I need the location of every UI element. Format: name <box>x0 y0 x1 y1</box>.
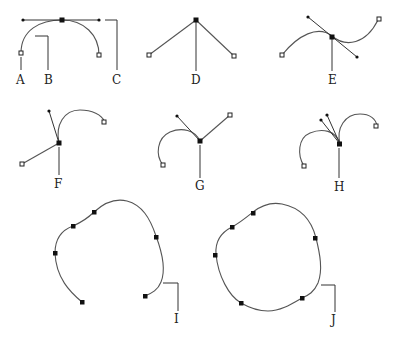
leader-b <box>35 36 48 70</box>
endpoint-anchor-right <box>232 54 236 58</box>
figure-i: I <box>53 200 179 326</box>
path-anchor-point <box>53 251 58 256</box>
label-e: E <box>328 73 337 87</box>
endpoint-anchor-left <box>161 163 165 167</box>
path-anchor-point <box>300 296 305 301</box>
path-anchor-point <box>313 236 318 241</box>
bezier-diagram: A B C D E F <box>0 0 396 339</box>
figure-h: H <box>300 113 378 194</box>
path-anchor-point <box>230 225 235 230</box>
direction-point <box>47 109 50 112</box>
straight-segment-left <box>149 20 196 55</box>
leader-c <box>105 20 117 70</box>
direction-point <box>175 114 178 117</box>
corner-anchor-point <box>198 139 203 144</box>
endpoint-anchor-right <box>102 120 106 124</box>
endpoint-anchor-left <box>19 51 23 55</box>
straight-segment <box>200 115 230 141</box>
leader-i <box>163 283 178 311</box>
endpoint-anchor-left <box>147 53 151 57</box>
direction-point-right <box>325 113 328 116</box>
corner-anchor-point <box>57 141 62 146</box>
endpoint-anchor-left <box>20 162 24 166</box>
path-anchor-point <box>71 224 76 229</box>
path-anchor-point <box>213 253 218 258</box>
label-h: H <box>334 180 344 194</box>
endpoint-anchor-right <box>377 17 381 21</box>
curved-segment <box>58 110 104 143</box>
direction-point-right <box>97 18 100 21</box>
figure-e: E <box>280 15 381 87</box>
direction-point-left <box>21 18 24 21</box>
straight-segment-right <box>196 20 234 56</box>
figure-j: J <box>213 203 336 327</box>
direction-line <box>49 111 59 143</box>
label-d: D <box>191 73 201 87</box>
endpoint-anchor-right <box>97 53 101 57</box>
selected-anchor-point <box>60 18 65 23</box>
label-c: C <box>112 73 121 87</box>
closed-path <box>216 203 321 311</box>
figure-d: D <box>147 18 236 88</box>
path-anchor-point <box>154 235 159 240</box>
leader-j <box>321 285 335 312</box>
direction-point-upper <box>306 15 309 18</box>
corner-anchor-point <box>194 18 199 23</box>
curved-segment <box>158 130 200 165</box>
path-anchor-point <box>143 294 148 299</box>
smooth-anchor-point <box>330 35 335 40</box>
endpoint-anchor-left <box>280 53 284 57</box>
figure-f: F <box>20 109 106 191</box>
label-g: G <box>195 179 205 193</box>
label-i: I <box>174 312 179 326</box>
label-j: J <box>329 313 336 327</box>
curved-segment-right <box>339 114 377 144</box>
direction-line <box>177 116 200 141</box>
endpoint-anchor-right <box>228 113 232 117</box>
path-anchor-point <box>80 300 85 305</box>
smooth-curve <box>21 20 99 55</box>
straight-segment <box>22 143 59 164</box>
endpoint-anchor-right <box>374 124 378 128</box>
endpoint-anchor-left <box>302 164 306 168</box>
label-b: B <box>44 73 53 87</box>
corner-anchor-point <box>337 142 342 147</box>
open-path <box>55 200 163 302</box>
figure-g: G <box>158 113 232 193</box>
direction-point-left <box>319 118 322 121</box>
label-a: A <box>15 73 25 87</box>
label-f: F <box>54 177 62 191</box>
direction-point-lower <box>355 55 358 58</box>
figure-abc: A B C <box>15 18 121 88</box>
path-anchor-point <box>239 301 244 306</box>
path-anchor-point <box>92 210 97 215</box>
path-anchor-point <box>251 211 256 216</box>
